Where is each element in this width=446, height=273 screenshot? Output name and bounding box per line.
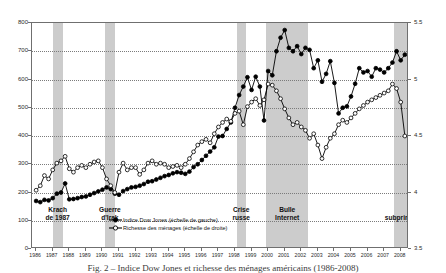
y-axis-tick-mark [28,135,31,136]
x-axis-tick-mark [201,248,202,251]
x-axis-tick-mark [68,248,69,251]
x-axis-tick-mark [135,248,136,251]
y2-axis-tick-mark [408,22,411,23]
crisis-annotation: Krach de 1987 [31,206,86,221]
y-axis-tick-label: 600 [6,76,28,82]
y2-axis-tick-mark [408,79,411,80]
y-axis-tick-label: 200 [6,189,28,195]
x-axis-tick-mark [85,248,86,251]
y-axis-tick-mark [28,220,31,221]
x-axis-tick-mark [267,248,268,251]
x-axis-tick-mark [52,248,53,251]
annotations-layer: Krach de 1987Guerre d'IrakCrise russeBul… [32,23,407,247]
x-axis-tick-mark [400,248,401,251]
x-axis-tick-mark [350,248,351,251]
x-axis-tick-mark [151,248,152,251]
legend-label-richesse-menages: Richesse des ménages (échelle de droite) [123,224,227,232]
y-axis-tick-label: 100 [6,217,28,223]
x-axis-tick-mark [383,248,384,251]
x-axis-tick-mark [333,248,334,251]
y-axis-tick-mark [28,248,31,249]
figure-caption: Fig. 2 – Indice Dow Jones et richesse de… [0,263,446,273]
legend-label-dow-jones: Indice Dow Jones (échelle de gauche) [123,216,218,224]
y-axis-tick-mark [28,107,31,108]
x-axis-tick-mark [168,248,169,251]
y-axis-tick-mark [28,192,31,193]
y-axis-tick-label: 700 [6,47,28,53]
y2-axis-tick-label: 4 [414,189,417,195]
x-axis-tick-mark [101,248,102,251]
y-axis-tick-mark [28,50,31,51]
y-axis-tick-label: 800 [6,19,28,25]
x-axis-tick-label: 2008 [389,252,411,258]
legend-item: Indice Dow Jones (échelle de gauche) [108,216,227,224]
x-axis-tick-mark [184,248,185,251]
crisis-annotation: subprimes [374,214,408,222]
y-axis-tick-label: 500 [6,104,28,110]
y-axis-tick-mark [28,163,31,164]
y-axis-tick-label: 0 [6,245,28,251]
x-axis-tick-mark [35,248,36,251]
y2-axis-tick-label: 5.5 [414,19,422,25]
legend-marker-filled-circle-icon [108,216,123,224]
y2-axis-tick-mark [408,192,411,193]
crisis-annotation: Bulle Internet [259,206,315,221]
y-axis-tick-mark [28,79,31,80]
x-axis-tick-mark [217,248,218,251]
y-axis-tick-label: 300 [6,160,28,166]
legend-marker-open-circle-icon [108,224,123,232]
y2-axis-tick-mark [408,135,411,136]
x-axis-tick-mark [118,248,119,251]
y2-axis-tick-label: 5 [414,76,417,82]
x-axis-tick-mark [317,248,318,251]
x-axis-tick-mark [367,248,368,251]
legend-item: Richesse des ménages (échelle de droite) [108,224,227,232]
y-axis-tick-label: 400 [6,132,28,138]
y2-axis-tick-label: 3.5 [414,245,422,251]
plot-area: Krach de 1987Guerre d'IrakCrise russeBul… [31,22,408,248]
y-axis-tick-mark [28,22,31,23]
x-axis-tick-mark [251,248,252,251]
x-axis-tick-mark [300,248,301,251]
x-axis-tick-mark [284,248,285,251]
y2-axis-tick-mark [408,248,411,249]
y2-axis-tick-label: 4.5 [414,132,422,138]
legend: Indice Dow Jones (échelle de gauche) Ric… [108,216,227,232]
x-axis-tick-mark [234,248,235,251]
